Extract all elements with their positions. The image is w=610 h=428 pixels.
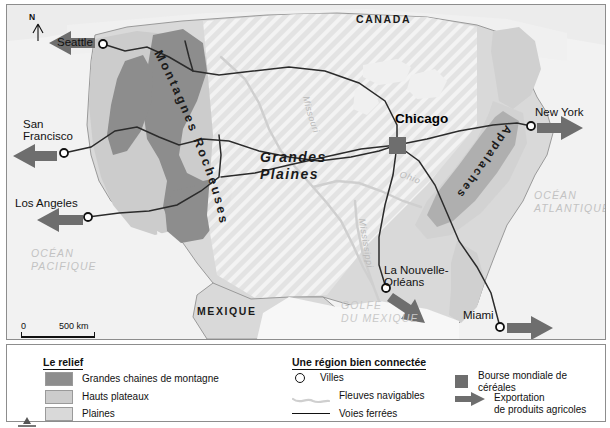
north-arrow: N	[29, 13, 51, 43]
map-graphics: Montagnes Rocheuses Appalaches Missouri …	[7, 5, 605, 339]
legend-label-plaines: Plaines	[82, 408, 115, 420]
legend-item-villes[interactable]: Villes	[292, 372, 344, 384]
railway-line-icon	[292, 413, 330, 414]
legend-label-bourse: Bourse mondiale de céréales	[478, 370, 605, 394]
legend-panel: Le relief Grandes chaines de montagne Ha…	[6, 344, 606, 422]
map-canvas[interactable]: Montagnes Rocheuses Appalaches Missouri …	[6, 4, 606, 340]
legend-label-voies-ferrees: Voies ferrées	[339, 408, 397, 420]
legend-item-hauts-plateaux[interactable]: Hauts plateaux	[45, 390, 149, 404]
legend-label-grandes-chaines: Grandes chaines de montagne	[82, 373, 219, 385]
city-circle-icon	[295, 373, 305, 383]
legend-item-plaines[interactable]: Plaines	[45, 407, 115, 421]
legend-label-exportation: Exportation de produits agricoles	[494, 392, 586, 416]
legend-item-voies-ferrees[interactable]: Voies ferrées	[292, 408, 397, 420]
north-letter: N	[29, 13, 51, 22]
swatch-mountain-icon	[45, 372, 73, 386]
grain-exchange-square-icon	[455, 375, 468, 388]
river-line-icon	[292, 391, 330, 400]
swatch-plain-icon	[45, 407, 73, 421]
page-artifact-arrow-icon	[18, 414, 36, 426]
legend-title-relief: Le relief	[43, 352, 83, 370]
scale-bar-line	[21, 332, 95, 338]
legend-item-bourse[interactable]: Bourse mondiale de céréales	[455, 370, 605, 394]
legend-label-fleuves: Fleuves navigables	[339, 390, 425, 402]
legend-item-exportation[interactable]: Exportation de produits agricoles	[455, 392, 586, 416]
export-arrow-icon	[455, 392, 485, 406]
legend-item-fleuves[interactable]: Fleuves navigables	[292, 390, 425, 402]
legend-title-connectee: Une région bien connectée	[292, 352, 426, 370]
map-page: Montagnes Rocheuses Appalaches Missouri …	[0, 0, 610, 428]
legend-label-villes: Villes	[320, 372, 344, 384]
legend-item-grandes-chaines[interactable]: Grandes chaines de montagne	[45, 372, 219, 386]
swatch-plateau-icon	[45, 390, 73, 404]
legend-label-hauts-plateaux: Hauts plateaux	[82, 391, 149, 403]
